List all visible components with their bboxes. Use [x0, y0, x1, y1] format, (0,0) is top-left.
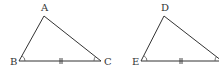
vertex-label-e: E	[132, 56, 139, 67]
vertex-label-b: B	[10, 56, 17, 67]
angle-mark-c	[94, 57, 95, 61]
angle-mark-b	[22, 56, 25, 61]
vertex-label-c: C	[104, 56, 112, 67]
angle-mark-f	[215, 57, 216, 61]
triangle-abc: A B C	[10, 2, 112, 67]
triangle-def-outline	[141, 16, 219, 61]
triangle-abc-outline	[19, 16, 101, 61]
triangle-congruence-figure: A B C D E	[0, 0, 219, 79]
vertex-label-a: A	[40, 2, 49, 13]
angle-mark-e	[144, 56, 147, 61]
triangle-def: D E	[132, 2, 219, 67]
vertex-label-d: D	[161, 2, 169, 13]
